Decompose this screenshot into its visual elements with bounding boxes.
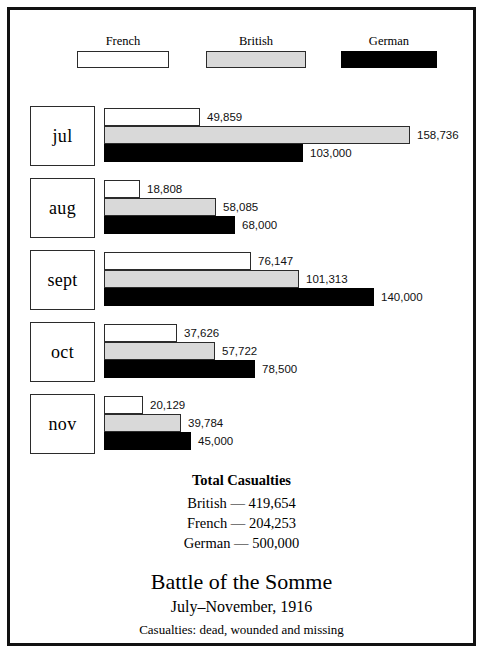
bar-line: 45,000	[104, 432, 473, 450]
bar-value-label: 45,000	[191, 432, 233, 450]
bar-line: 39,784	[104, 414, 473, 432]
legend-label-german: German	[341, 34, 437, 48]
month-label: oct	[51, 342, 74, 363]
totals-block: Total Casualties British — 419,654 Frenc…	[10, 472, 473, 553]
chart-subtitle: July–November, 1916	[10, 595, 473, 619]
bar-value-label: 57,722	[215, 342, 257, 360]
bar-french	[104, 252, 251, 270]
bar-value-label: 158,736	[410, 126, 459, 144]
chart-caption: Casualties: dead, wounded and missing	[10, 619, 473, 641]
bar-line: 58,085	[104, 198, 473, 216]
bar-british	[104, 342, 215, 360]
bar-line: 49,859	[104, 108, 473, 126]
bar-german	[104, 288, 374, 306]
bar-british	[104, 198, 216, 216]
month-label-box: oct	[30, 322, 95, 382]
legend-label-french: French	[77, 34, 169, 48]
chart-row: aug18,80858,08568,000	[10, 174, 473, 246]
bar-value-label: 20,129	[143, 396, 185, 414]
bar-value-label: 39,784	[181, 414, 223, 432]
chart-rows: jul49,859158,736103,000aug18,80858,08568…	[10, 102, 473, 462]
bar-line: 20,129	[104, 396, 473, 414]
bar-british	[104, 126, 410, 144]
bar-group: 20,12939,78445,000	[104, 396, 473, 450]
legend-swatch-british	[206, 51, 306, 68]
bar-group: 37,62657,72278,500	[104, 324, 473, 378]
bar-german	[104, 432, 191, 450]
bar-line: 140,000	[104, 288, 473, 306]
bar-german	[104, 144, 303, 162]
bar-value-label: 18,808	[140, 180, 182, 198]
chart-page: French British German jul49,859158,73610…	[0, 0, 489, 659]
legend-item-german: German	[341, 34, 437, 68]
bar-line: 68,000	[104, 216, 473, 234]
bar-value-label: 68,000	[235, 216, 277, 234]
month-label: sept	[47, 270, 77, 291]
chart-row: nov20,12939,78445,000	[10, 390, 473, 462]
bar-line: 18,808	[104, 180, 473, 198]
bar-value-label: 140,000	[374, 288, 423, 306]
bar-line: 37,626	[104, 324, 473, 342]
legend-swatch-german	[341, 51, 437, 68]
bar-line: 57,722	[104, 342, 473, 360]
month-label-box: nov	[30, 394, 95, 454]
totals-line-german: German — 500,000	[10, 533, 473, 553]
bar-british	[104, 414, 181, 432]
chart-row: jul49,859158,736103,000	[10, 102, 473, 174]
chart-row: oct37,62657,72278,500	[10, 318, 473, 390]
bar-line: 101,313	[104, 270, 473, 288]
bar-line: 78,500	[104, 360, 473, 378]
chart-legend: French British German	[10, 34, 473, 84]
legend-item-british: British	[206, 34, 306, 68]
totals-title: Total Casualties	[10, 472, 473, 489]
month-label: aug	[49, 198, 76, 219]
bar-group: 49,859158,736103,000	[104, 108, 473, 162]
bar-group: 76,147101,313140,000	[104, 252, 473, 306]
month-label: nov	[49, 414, 77, 435]
title-block: Battle of the Somme July–November, 1916 …	[10, 568, 473, 641]
legend-swatch-french	[77, 51, 169, 68]
bar-value-label: 76,147	[251, 252, 293, 270]
bar-french	[104, 324, 177, 342]
bar-german	[104, 216, 235, 234]
bar-value-label: 58,085	[216, 198, 258, 216]
month-label-box: aug	[30, 178, 95, 238]
chart-frame: French British German jul49,859158,73610…	[7, 7, 476, 646]
bar-french	[104, 180, 140, 198]
chart-row: sept76,147101,313140,000	[10, 246, 473, 318]
totals-line-french: French — 204,253	[10, 513, 473, 533]
bar-group: 18,80858,08568,000	[104, 180, 473, 234]
bar-german	[104, 360, 255, 378]
bar-value-label: 103,000	[303, 144, 352, 162]
month-label-box: sept	[30, 250, 95, 310]
bar-french	[104, 396, 143, 414]
legend-item-french: French	[77, 34, 169, 68]
bar-value-label: 101,313	[299, 270, 348, 288]
bar-line: 158,736	[104, 126, 473, 144]
bar-value-label: 78,500	[255, 360, 297, 378]
chart-title: Battle of the Somme	[10, 568, 473, 595]
legend-label-british: British	[206, 34, 306, 48]
bar-value-label: 37,626	[177, 324, 219, 342]
bar-british	[104, 270, 299, 288]
bar-line: 103,000	[104, 144, 473, 162]
totals-line-british: British — 419,654	[10, 493, 473, 513]
bar-french	[104, 108, 200, 126]
month-label: jul	[53, 126, 73, 147]
bar-value-label: 49,859	[200, 108, 242, 126]
bar-line: 76,147	[104, 252, 473, 270]
month-label-box: jul	[30, 106, 95, 166]
